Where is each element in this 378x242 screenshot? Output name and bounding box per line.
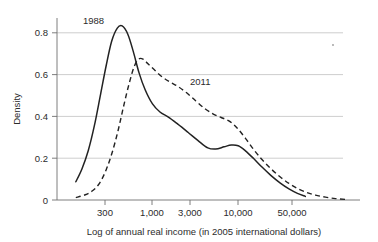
series-line-2011	[76, 58, 346, 199]
y-tick-label-0: 0	[43, 195, 48, 206]
x-axis-ticks	[105, 200, 292, 205]
axes	[57, 18, 360, 200]
y-tick-label-0.4: 0.4	[35, 111, 48, 122]
y-axis-ticks	[52, 33, 57, 200]
x-tick-label-10000: 10,000	[223, 207, 252, 218]
x-tick-label-3000: 3,000	[178, 207, 202, 218]
x-axis-tick-labels: 300 1,000 3,000 10,000 50,000	[97, 207, 306, 218]
scan-speck-artifact	[332, 44, 334, 46]
x-tick-label-1000: 1,000	[140, 207, 164, 218]
x-axis-title: Log of annual real income (in 2005 inter…	[87, 226, 321, 237]
y-axis-tick-labels: 0.8 0.6 0.4 0.2 0	[35, 27, 48, 205]
x-tick-label-300: 300	[97, 207, 113, 218]
x-tick-label-50000: 50,000	[277, 207, 306, 218]
series-annotation-1988: 1988	[83, 15, 104, 26]
y-axis-title: Density	[11, 93, 22, 125]
chart-canvas: 0.8 0.6 0.4 0.2 0 300 1,000 3,000 10,000…	[0, 0, 378, 242]
density-chart-figure: 0.8 0.6 0.4 0.2 0 300 1,000 3,000 10,000…	[0, 0, 378, 242]
y-tick-label-0.2: 0.2	[35, 153, 48, 164]
y-tick-label-0.6: 0.6	[35, 69, 48, 80]
y-tick-label-0.8: 0.8	[35, 27, 48, 38]
series-line-1988	[76, 25, 306, 196]
series-annotation-2011: 2011	[190, 76, 210, 87]
